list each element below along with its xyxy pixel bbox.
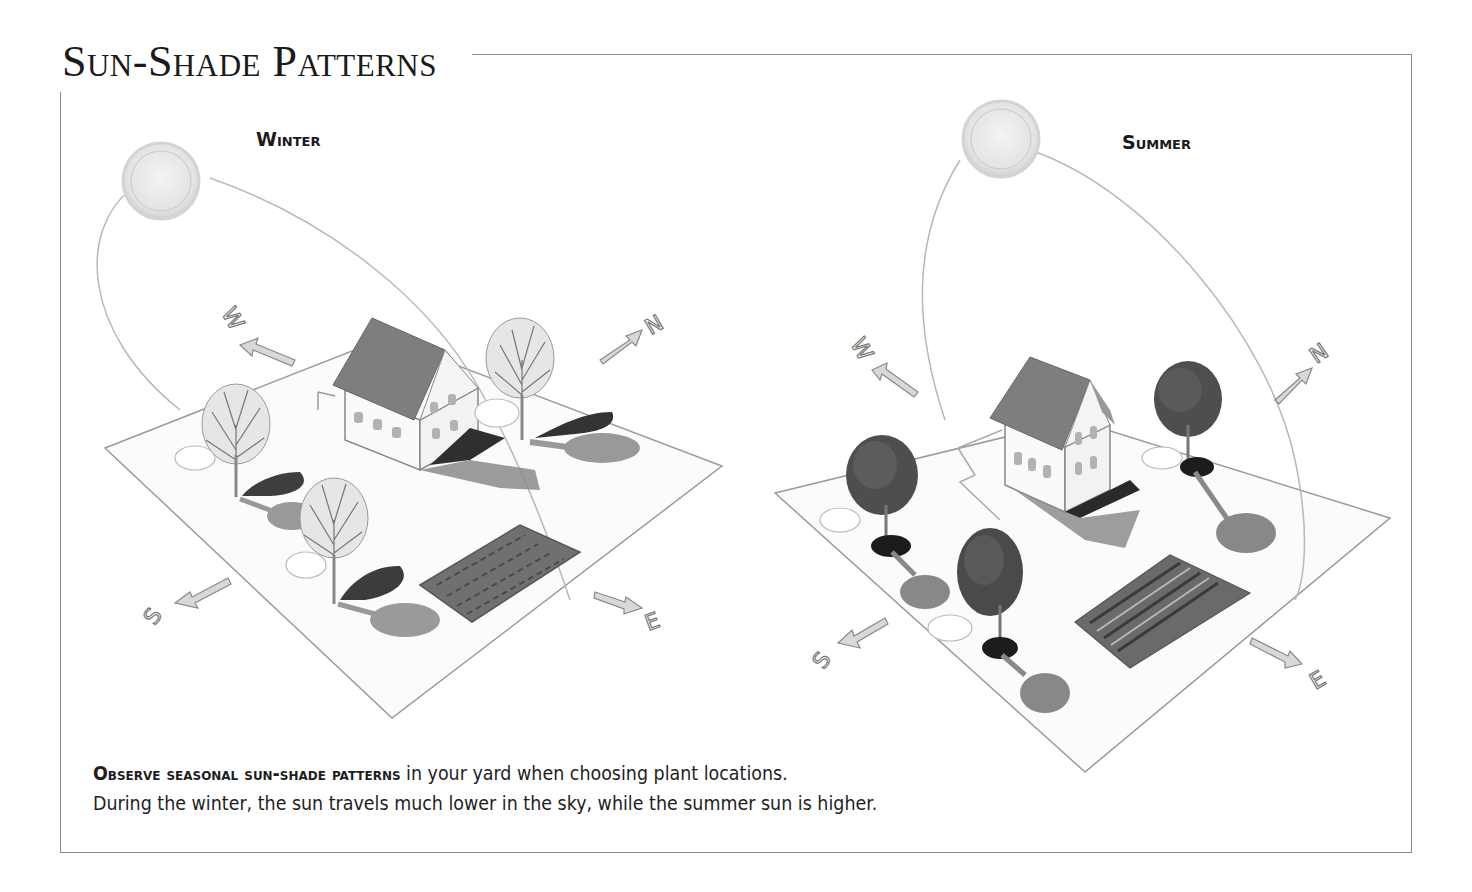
summer-arrow-east-icon bbox=[1250, 638, 1302, 668]
summer-arrow-north-icon bbox=[1275, 368, 1312, 404]
winter-arrow-south-icon bbox=[175, 578, 231, 608]
summer-panel: W N S E bbox=[775, 101, 1390, 772]
summer-arrow-west-icon bbox=[872, 363, 918, 397]
caption-line-2: During the winter, the sun travels much … bbox=[93, 788, 877, 818]
caption-lead: Observe seasonal sun-shade patterns bbox=[93, 762, 401, 784]
summer-arrow-south-icon bbox=[838, 618, 888, 648]
caption: Observe seasonal sun-shade patterns in y… bbox=[93, 758, 877, 818]
summer-label-north: N bbox=[1305, 338, 1333, 368]
winter-arrow-west-icon bbox=[240, 338, 295, 366]
winter-label-north: N bbox=[641, 310, 668, 340]
winter-arrow-east-icon bbox=[594, 592, 642, 614]
winter-label-west: W bbox=[217, 303, 250, 335]
summer-label-east: E bbox=[1305, 666, 1330, 695]
winter-label-south: S bbox=[138, 603, 166, 629]
summer-label: Summer bbox=[1122, 131, 1191, 153]
caption-line-1: Observe seasonal sun-shade patterns in y… bbox=[93, 758, 877, 788]
winter-label-east: E bbox=[641, 607, 663, 635]
summer-sun-icon bbox=[963, 101, 1039, 177]
winter-arrow-north-icon bbox=[600, 330, 642, 364]
caption-line-1-rest: in your yard when choosing plant locatio… bbox=[401, 762, 788, 784]
summer-label-west: W bbox=[846, 333, 879, 365]
winter-label: Winter bbox=[256, 128, 320, 150]
summer-label-south: S bbox=[807, 647, 835, 673]
winter-panel: W N S E bbox=[97, 143, 722, 718]
winter-sun-icon bbox=[123, 143, 199, 219]
